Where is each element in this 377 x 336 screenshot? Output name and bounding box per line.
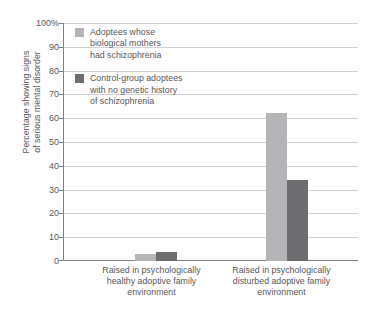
x-axis-labels: Raised in psychologically healthy adopti… bbox=[64, 265, 358, 310]
y-tick-10: 10 bbox=[25, 233, 59, 242]
bar-disturbed-control-group bbox=[287, 180, 308, 261]
y-tick-40: 40 bbox=[25, 162, 59, 171]
tick-mark-70 bbox=[59, 94, 63, 95]
y-tick-60: 60 bbox=[25, 114, 59, 123]
tick-mark-10 bbox=[59, 237, 63, 238]
y-tick-30: 30 bbox=[25, 186, 59, 195]
tick-mark-100 bbox=[59, 23, 63, 24]
tick-mark-60 bbox=[59, 118, 63, 119]
tick-mark-0 bbox=[59, 260, 63, 261]
bar-disturbed-adoptees-schizophrenia bbox=[266, 113, 287, 261]
tick-mark-40 bbox=[59, 166, 63, 167]
bar-chart: Percentage showing signs of serious ment… bbox=[0, 0, 377, 336]
tick-mark-30 bbox=[59, 190, 63, 191]
y-tick-70: 70 bbox=[25, 90, 59, 99]
tick-mark-90 bbox=[59, 47, 63, 48]
y-tick-80: 80 bbox=[25, 67, 59, 76]
y-axis-ticks: 100% 90 80 70 60 50 40 30 20 10 0 bbox=[23, 23, 59, 261]
bar-healthy-adoptees-schizophrenia bbox=[135, 254, 156, 261]
tick-mark-50 bbox=[59, 142, 63, 143]
bar-healthy-control-group bbox=[156, 252, 177, 262]
y-tick-90: 90 bbox=[25, 43, 59, 52]
plot-area: Adoptees whose biological mothers had sc… bbox=[63, 23, 358, 261]
tick-mark-80 bbox=[59, 71, 63, 72]
tick-mark-20 bbox=[59, 213, 63, 214]
y-tick-0: 0 bbox=[25, 257, 59, 266]
y-tick-50: 50 bbox=[25, 138, 59, 147]
bar-group-container bbox=[64, 23, 358, 261]
y-tick-100: 100% bbox=[25, 19, 59, 28]
y-tick-20: 20 bbox=[25, 209, 59, 218]
x-label-disturbed-environment: Raised in psychologically disturbed adop… bbox=[199, 265, 364, 299]
